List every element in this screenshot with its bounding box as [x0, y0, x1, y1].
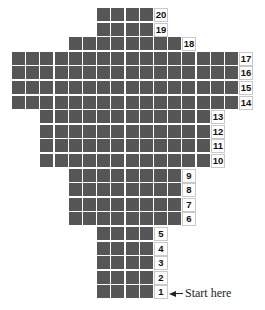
grid-cell	[111, 81, 124, 94]
grid-cell	[12, 96, 25, 109]
grid-cell	[26, 66, 39, 79]
grid-cell	[140, 96, 153, 109]
start-annotation: Start here	[169, 286, 231, 301]
arrow-left-icon	[169, 290, 183, 298]
grid-cell	[197, 125, 210, 138]
grid-cell	[40, 66, 53, 79]
grid-cell	[97, 52, 110, 65]
grid-cell	[168, 96, 181, 109]
grid-cell	[225, 66, 238, 79]
grid-cell	[126, 139, 139, 152]
grid-cell	[12, 52, 25, 65]
grid-cell	[225, 81, 238, 94]
grid-cell	[154, 183, 167, 196]
grid-cell	[111, 169, 124, 182]
grid-cell	[40, 110, 53, 123]
grid-cell	[126, 23, 139, 36]
grid-cell	[140, 271, 153, 284]
grid-cell	[182, 66, 195, 79]
grid-cell	[154, 169, 167, 182]
grid-cell	[111, 37, 124, 50]
grid-cell	[182, 110, 195, 123]
grid-cell	[83, 37, 96, 50]
grid-cell	[126, 8, 139, 21]
grid-cell	[197, 154, 210, 167]
grid-cell	[97, 256, 110, 269]
grid-cell	[126, 256, 139, 269]
grid-cell	[211, 96, 224, 109]
grid-cell	[55, 81, 68, 94]
grid-cell	[168, 110, 181, 123]
grid-cell	[111, 242, 124, 255]
grid-cell	[26, 96, 39, 109]
grid-cell	[111, 285, 124, 298]
grid-cell	[126, 110, 139, 123]
row-number-label: 18	[182, 37, 196, 51]
grid-cell	[140, 242, 153, 255]
grid-cell	[140, 81, 153, 94]
grid-cell	[83, 169, 96, 182]
grid-cell	[83, 154, 96, 167]
grid-cell	[40, 81, 53, 94]
row-number-label: 20	[154, 8, 168, 22]
grid-cell	[97, 227, 110, 240]
row-number-label: 11	[211, 139, 225, 153]
grid-cell	[154, 198, 167, 211]
grid-cell	[97, 242, 110, 255]
grid-cell	[126, 37, 139, 50]
grid-cell	[111, 52, 124, 65]
grid-cell	[197, 139, 210, 152]
grid-cell	[126, 242, 139, 255]
grid-cell	[83, 66, 96, 79]
grid-cell	[197, 66, 210, 79]
grid-cell	[55, 52, 68, 65]
grid-cell	[140, 66, 153, 79]
grid-cell	[154, 52, 167, 65]
grid-cell	[26, 81, 39, 94]
grid-cell	[126, 52, 139, 65]
grid-cell	[111, 212, 124, 225]
row-number-label: 16	[239, 66, 253, 80]
grid-cell	[140, 154, 153, 167]
grid-cell	[140, 285, 153, 298]
grid-cell	[154, 212, 167, 225]
grid-cell	[97, 81, 110, 94]
grid-cell	[111, 256, 124, 269]
row-number-label: 19	[154, 23, 168, 37]
grid-cell	[126, 227, 139, 240]
grid-cell	[154, 125, 167, 138]
grid-cell	[97, 271, 110, 284]
grid-cell	[211, 52, 224, 65]
grid-cell	[111, 96, 124, 109]
grid-cell	[55, 125, 68, 138]
grid-cell	[12, 81, 25, 94]
grid-cell	[111, 198, 124, 211]
grid-cell	[126, 183, 139, 196]
grid-cell	[111, 154, 124, 167]
grid-cell	[168, 139, 181, 152]
grid-cell	[83, 212, 96, 225]
grid-cell	[69, 198, 82, 211]
grid-cell	[168, 52, 181, 65]
grid-cell	[55, 96, 68, 109]
row-number-label: 6	[182, 212, 196, 226]
grid-cell	[40, 125, 53, 138]
row-number-label: 13	[211, 110, 225, 124]
grid-cell	[140, 52, 153, 65]
grid-cell	[140, 183, 153, 196]
grid-cell	[111, 271, 124, 284]
grid-cell	[55, 154, 68, 167]
row-number-label: 5	[154, 227, 168, 241]
grid-cell	[154, 139, 167, 152]
grid-cell	[83, 183, 96, 196]
grid-cell	[140, 256, 153, 269]
grid-cell	[140, 227, 153, 240]
grid-cell	[182, 81, 195, 94]
grid-cell	[140, 198, 153, 211]
grid-cell	[69, 125, 82, 138]
grid-cell	[140, 139, 153, 152]
grid-cell	[83, 110, 96, 123]
grid-cell	[97, 139, 110, 152]
grid-cell	[126, 212, 139, 225]
grid-cell	[126, 96, 139, 109]
